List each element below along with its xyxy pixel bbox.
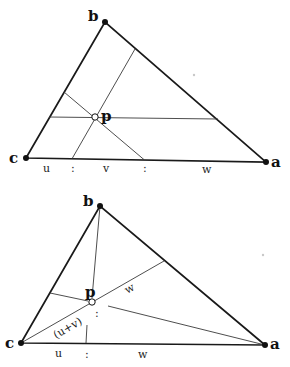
segment-label-colon: : (95, 307, 99, 320)
barycentric-diagrams: b c a p u : v : w b c a p w (u+v) : u : (0, 0, 290, 367)
vertex-c-label: c (5, 334, 14, 352)
vertex-a-dot (262, 342, 268, 348)
line-parallel-ca (49, 117, 218, 119)
scan-speck (262, 254, 264, 256)
vertex-b-label: b (88, 7, 99, 25)
top-triangle-diagram: b c a p u : v : w (9, 7, 281, 176)
vertex-c-label: c (9, 149, 18, 167)
base-label-v: v (102, 162, 110, 175)
vertex-c-dot (18, 340, 24, 346)
point-p-label: p (85, 283, 96, 301)
bottom-triangle-diagram: b c a p w (u+v) : u : w (5, 192, 280, 361)
base-label-w: w (138, 348, 148, 361)
base-label-w: w (202, 163, 212, 176)
base-label-colon: : (85, 348, 89, 361)
scan-speck (193, 74, 195, 76)
base-label-colon-2: : (143, 162, 147, 175)
cevian-a-p-extension (50, 293, 88, 301)
vertex-b-dot (102, 19, 108, 25)
vertex-b-label: b (83, 192, 94, 210)
base-tick (86, 325, 87, 343)
vertex-c-dot (23, 155, 29, 161)
triangle-abc (21, 206, 265, 345)
vertex-a-label: a (271, 153, 281, 171)
vertex-b-dot (97, 203, 103, 209)
vertex-a-dot (263, 159, 269, 165)
base-label-u: u (43, 162, 50, 175)
base-label-u: u (55, 347, 62, 360)
triangle-abc (26, 22, 266, 162)
line-parallel-cb (72, 49, 135, 159)
point-p-label: p (101, 107, 112, 125)
point-p-circle (92, 114, 98, 120)
vertex-a-label: a (270, 335, 280, 353)
segment-label-w: w (122, 280, 137, 296)
segment-label-u-plus-v: (u+v) (51, 315, 84, 342)
base-label-colon-1: : (71, 162, 75, 175)
